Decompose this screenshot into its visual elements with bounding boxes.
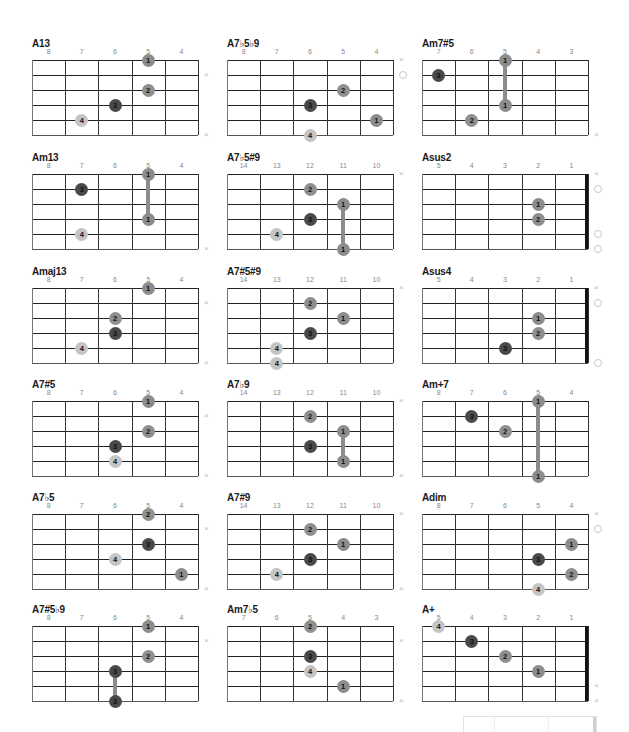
fret-number: 4 bbox=[171, 48, 191, 55]
fret-number: 10 bbox=[366, 276, 386, 283]
fret-number: 6 bbox=[105, 162, 125, 169]
fretboard: 876541321 bbox=[422, 401, 588, 476]
fretboard: 14131211102131×× bbox=[227, 401, 393, 476]
fret-line bbox=[293, 60, 294, 135]
fret-number: 14 bbox=[234, 389, 254, 396]
fret-line bbox=[98, 514, 99, 589]
fret-line bbox=[588, 514, 589, 589]
fret-line bbox=[488, 288, 489, 363]
string-line bbox=[32, 589, 198, 590]
finger-dot: 4 bbox=[109, 553, 122, 566]
fret-line bbox=[132, 288, 133, 363]
finger-dot: 3 bbox=[109, 665, 122, 678]
muted-string-icon: × bbox=[594, 697, 604, 705]
fret-line bbox=[32, 288, 33, 363]
string-line bbox=[32, 641, 198, 642]
fret-number: 6 bbox=[495, 502, 515, 509]
string-line bbox=[422, 363, 588, 364]
fret-line bbox=[360, 401, 361, 476]
muted-string-icon: × bbox=[399, 585, 409, 593]
fret-line bbox=[455, 174, 456, 249]
string-line bbox=[422, 476, 588, 477]
fret-number: 4 bbox=[528, 48, 548, 55]
finger-dot: 4 bbox=[109, 455, 122, 468]
fret-number: 3 bbox=[495, 276, 515, 283]
finger-dot: 4 bbox=[532, 583, 545, 596]
fret-line bbox=[260, 60, 261, 135]
nut bbox=[585, 174, 588, 249]
muted-string-icon: × bbox=[399, 472, 409, 480]
finger-dot: 3 bbox=[109, 440, 122, 453]
finger-dot: 4 bbox=[432, 620, 445, 633]
fret-line bbox=[227, 626, 228, 701]
fret-number: 6 bbox=[267, 614, 287, 621]
fretboard: 876541234×× bbox=[32, 401, 198, 476]
fret-line bbox=[555, 60, 556, 135]
finger-dot: 3 bbox=[109, 327, 122, 340]
muted-string-icon: × bbox=[204, 585, 214, 593]
fret-line bbox=[588, 288, 589, 363]
finger-dot: 1 bbox=[565, 538, 578, 551]
fret-line bbox=[227, 401, 228, 476]
fret-line bbox=[455, 401, 456, 476]
muted-string-icon: × bbox=[204, 299, 214, 307]
chord-diagram: A7#5♭9876541233× bbox=[32, 604, 232, 719]
finger-dot: 3 bbox=[142, 538, 155, 551]
fret-number: 14 bbox=[234, 162, 254, 169]
finger-dot: 4 bbox=[270, 357, 283, 370]
open-string-icon bbox=[594, 359, 602, 367]
scroll-widget[interactable] bbox=[463, 716, 597, 732]
muted-string-icon: × bbox=[204, 637, 214, 645]
fret-line bbox=[327, 626, 328, 701]
fret-line bbox=[65, 401, 66, 476]
fret-number: 5 bbox=[429, 162, 449, 169]
string-line bbox=[227, 574, 393, 575]
chord-diagram: A7♭5♭9876542314× bbox=[227, 38, 427, 153]
widget-handle[interactable] bbox=[593, 717, 596, 732]
fret-number: 7 bbox=[462, 389, 482, 396]
chord-diagram: A7♭5#9141312111021341× bbox=[227, 152, 427, 267]
fret-number: 4 bbox=[171, 502, 191, 509]
string-line bbox=[227, 641, 393, 642]
fret-line bbox=[260, 626, 261, 701]
string-line bbox=[227, 174, 393, 175]
fret-line bbox=[132, 174, 133, 249]
finger-dot: 3 bbox=[465, 635, 478, 648]
chord-diagram: Amaj13876541234×× bbox=[32, 266, 232, 381]
finger-dot: 3 bbox=[499, 342, 512, 355]
finger-dot: 1 bbox=[337, 680, 350, 693]
fret-line bbox=[393, 174, 394, 249]
fret-line bbox=[98, 401, 99, 476]
string-line bbox=[422, 234, 588, 235]
fret-line bbox=[488, 174, 489, 249]
finger-dot: 2 bbox=[304, 183, 317, 196]
fret-line bbox=[327, 514, 328, 589]
finger-dot: 2 bbox=[304, 620, 317, 633]
fret-number: 6 bbox=[495, 389, 515, 396]
string-line bbox=[422, 446, 588, 447]
fret-line bbox=[198, 514, 199, 589]
fret-number: 4 bbox=[366, 48, 386, 55]
fret-line bbox=[227, 174, 228, 249]
string-line bbox=[32, 544, 198, 545]
string-line bbox=[422, 544, 588, 545]
open-string-icon bbox=[594, 245, 602, 253]
open-string-icon bbox=[594, 185, 602, 193]
finger-dot: 1 bbox=[142, 395, 155, 408]
chord-diagram: Am7♭5765432341×× bbox=[227, 604, 427, 719]
finger-dot: 2 bbox=[532, 213, 545, 226]
fret-line bbox=[260, 288, 261, 363]
fret-line bbox=[165, 288, 166, 363]
fret-number: 7 bbox=[462, 502, 482, 509]
finger-dot: 3 bbox=[304, 99, 317, 112]
fretboard: 876542314× bbox=[227, 60, 393, 135]
muted-string-icon: × bbox=[594, 170, 604, 178]
string-line bbox=[32, 249, 198, 250]
fret-number: 6 bbox=[462, 48, 482, 55]
fretboard: 5432112× bbox=[422, 174, 588, 249]
fret-line bbox=[132, 514, 133, 589]
fret-line bbox=[393, 288, 394, 363]
fret-line bbox=[293, 626, 294, 701]
fret-number: 11 bbox=[333, 162, 353, 169]
fret-number: 8 bbox=[39, 276, 59, 283]
